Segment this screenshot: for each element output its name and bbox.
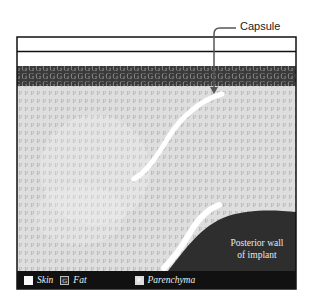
legend: Skin G Fat P Parenchyma <box>17 271 296 289</box>
breast-ultrasound-diagram: G P <box>0 0 313 307</box>
legend-item-parenchyma: P Parenchyma <box>135 275 196 285</box>
legend-item-skin: Skin <box>24 275 53 285</box>
implant-label: Posterior wall of implant <box>212 237 302 261</box>
skin-swatch-icon <box>24 276 33 285</box>
parenchyma-swatch-icon: P <box>135 276 144 285</box>
skin-layer <box>17 37 296 66</box>
fat-swatch-icon: G <box>60 276 69 285</box>
implant-label-line2: of implant <box>212 249 302 261</box>
legend-item-fat: G Fat <box>60 275 86 285</box>
fat-layer <box>17 66 296 86</box>
implant-label-line1: Posterior wall <box>212 237 302 249</box>
legend-label: Parenchyma <box>148 275 196 285</box>
legend-label: Fat <box>73 275 86 285</box>
legend-label: Skin <box>37 275 53 285</box>
capsule-label: Capsule <box>240 20 280 32</box>
